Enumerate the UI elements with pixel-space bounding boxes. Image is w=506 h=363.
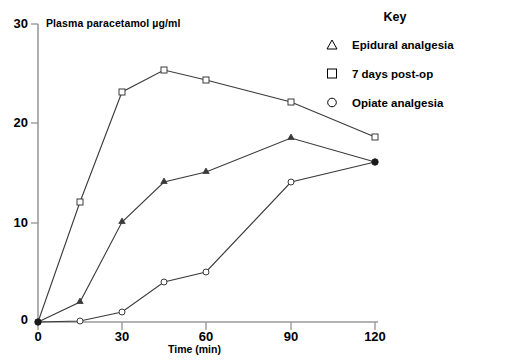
y-axis-ticks [31, 24, 38, 223]
chart-legend: Key Epidural analgesia 7 days post-op Op… [320, 10, 500, 124]
legend-item-label: Epidural analgesia [352, 39, 454, 51]
x-tick-label-90: 90 [271, 329, 311, 344]
chart-title: Plasma paracetamol µg/ml [46, 17, 181, 29]
y-tick-label-20: 20 [0, 115, 28, 130]
triangle-icon [320, 38, 344, 52]
legend-title: Key [326, 10, 464, 24]
legend-item-label: Opiate analgesia [352, 97, 443, 109]
legend-item-opiate-analgesia: Opiate analgesia [320, 95, 500, 110]
x-axis-label: Time (min) [168, 343, 221, 355]
x-tick-label-120: 120 [355, 329, 395, 344]
x-tick-label-30: 30 [102, 329, 142, 344]
x-tick-label-60: 60 [186, 329, 226, 344]
legend-item-epidural-analgesia: Epidural analgesia [320, 37, 500, 52]
x-tick-label-0: 0 [18, 329, 58, 344]
circle-icon [320, 96, 344, 110]
square-icon [320, 67, 344, 81]
series-epidural-analgesia [38, 134, 375, 322]
series-opiate-analgesia [35, 159, 378, 325]
y-tick-label-0: 0 [0, 312, 28, 327]
legend-item-label: 7 days post-op [352, 68, 433, 80]
legend-item-7-days-post-op: 7 days post-op [320, 66, 500, 81]
paracetamol-line-chart: Plasma paracetamol µg/ml 30 20 10 0 0 30… [0, 0, 506, 363]
y-tick-label-10: 10 [0, 215, 28, 230]
y-tick-label-30: 30 [0, 16, 28, 31]
